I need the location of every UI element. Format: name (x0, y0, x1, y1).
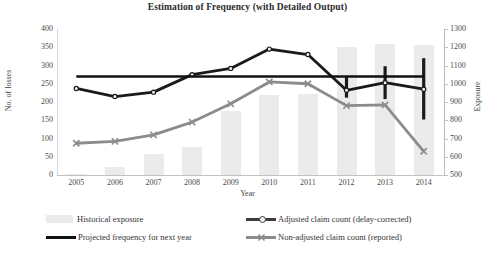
legend-label: Projected frequency for next year (78, 232, 192, 242)
data-point-marker (344, 88, 348, 92)
y-tick-label-right: 700 (450, 135, 462, 143)
legend-label: Non-adjusted claim count (reported) (278, 232, 402, 242)
y-tick-right (445, 47, 448, 48)
y-tick-right (445, 84, 448, 85)
data-point-marker (267, 47, 271, 51)
y-tick-label-left: 150 (41, 116, 53, 124)
line-series (73, 79, 427, 155)
y-tick-label-left: 400 (41, 25, 53, 33)
chart-title: Estimation of Frequency (with Detailed O… (0, 2, 495, 12)
plot-area (57, 29, 443, 175)
y-axis-left-title: No. of losses (4, 70, 13, 112)
y-tick-label-right: 1100 (450, 62, 466, 70)
data-point-marker (306, 52, 310, 56)
y-tick-right (445, 102, 448, 103)
data-point-marker (151, 90, 155, 94)
y-tick-label-left: 300 (41, 62, 53, 70)
x-tick-label: 2008 (172, 178, 212, 187)
y-tick-right (445, 66, 448, 67)
x-tick-label: 2010 (249, 178, 289, 187)
legend-item[interactable]: Non-adjusted claim count (reported) (246, 232, 402, 242)
data-point-marker (229, 66, 233, 70)
y-tick-label-right: 900 (450, 98, 462, 106)
x-axis-line (57, 175, 445, 176)
legend-x-marker-icon (257, 233, 266, 242)
data-point-marker (113, 94, 117, 98)
line-series-group (57, 29, 443, 175)
y-tick-label-right: 800 (450, 116, 462, 124)
y-tick-label-left: 250 (41, 80, 53, 88)
x-tick-label: 2009 (211, 178, 251, 187)
x-tick-label: 2013 (365, 178, 405, 187)
legend-item[interactable]: Adjusted claim count (delay-corrected) (246, 214, 411, 224)
data-point-marker (422, 87, 426, 91)
y-tick-label-left: 0 (49, 171, 53, 179)
legend-dot-marker-icon (259, 216, 266, 223)
y-tick-right (445, 139, 448, 140)
legend-swatch-line (46, 233, 76, 241)
chart-legend: Historical exposureAdjusted claim count … (0, 206, 495, 254)
x-tick-label: 2011 (288, 178, 328, 187)
legend-label: Adjusted claim count (delay-corrected) (278, 214, 411, 224)
x-tick-label: 2014 (404, 178, 444, 187)
x-tick-label: 2007 (134, 178, 174, 187)
line-series (74, 47, 426, 120)
x-tick-label: 2012 (327, 178, 367, 187)
data-point-marker (383, 81, 387, 85)
y-tick-right (445, 29, 448, 30)
y-tick-label-right: 500 (450, 171, 462, 179)
y-tick-label-right: 1000 (450, 80, 466, 88)
x-tick-label: 2005 (56, 178, 96, 187)
legend-item[interactable]: Historical exposure (46, 214, 143, 224)
legend-swatch-line (246, 215, 276, 223)
y-tick-right (445, 175, 448, 176)
data-line (76, 82, 423, 151)
y-tick-label-right: 1200 (450, 43, 466, 51)
x-axis-title: Year (0, 189, 495, 198)
y-tick-right (445, 120, 448, 121)
y-axis-right-title: Exposure (473, 81, 482, 111)
y-tick-label-left: 350 (41, 43, 53, 51)
data-line (76, 49, 423, 96)
y-tick-label-left: 50 (45, 153, 53, 161)
y-tick-label-right: 1300 (450, 25, 466, 33)
y-tick-label-left: 200 (41, 98, 53, 106)
y-tick-right (445, 157, 448, 158)
legend-line-glyph (46, 236, 76, 239)
x-tick-label: 2006 (95, 178, 135, 187)
y-tick-label-left: 100 (41, 135, 53, 143)
y-tick-label-right: 600 (450, 153, 462, 161)
legend-label: Historical exposure (77, 214, 143, 224)
data-point-marker (74, 86, 78, 90)
chart-container: Estimation of Frequency (with Detailed O… (0, 0, 495, 261)
legend-swatch-box (46, 215, 73, 223)
legend-swatch-line (246, 233, 276, 241)
legend-item[interactable]: Projected frequency for next year (46, 232, 192, 242)
